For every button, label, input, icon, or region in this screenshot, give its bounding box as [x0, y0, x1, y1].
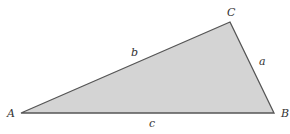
triangle-shape: [21, 22, 274, 113]
vertex-label-b: B: [280, 107, 289, 120]
vertex-label-c: C: [227, 6, 236, 19]
vertex-label-a: A: [6, 107, 15, 120]
side-label-a: a: [259, 55, 266, 68]
triangle-diagram: A B C a b c: [0, 0, 290, 134]
side-label-c: c: [149, 117, 155, 130]
side-label-b: b: [131, 46, 138, 59]
